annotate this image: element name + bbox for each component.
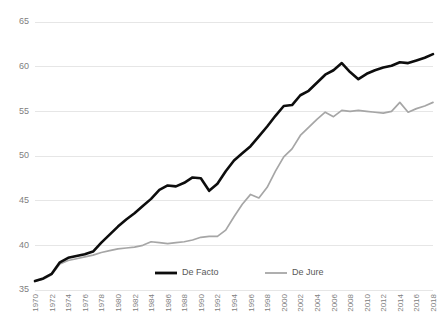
x-axis-tick-label: 2000 <box>280 293 289 311</box>
x-axis-tick-label: 1978 <box>97 293 106 311</box>
chart-background <box>0 0 440 332</box>
x-axis-tick-label: 2018 <box>429 293 438 311</box>
x-axis-tick-label: 1972 <box>48 293 57 311</box>
x-axis-tick-label: 1986 <box>164 293 173 311</box>
x-axis-tick-label: 1976 <box>81 293 90 311</box>
y-axis-tick-label: 65 <box>19 16 29 26</box>
x-axis-tick-label: 2014 <box>396 293 405 311</box>
x-axis-tick-label: 2016 <box>412 293 421 311</box>
y-axis-tick-label: 60 <box>19 61 29 71</box>
x-axis-tick-label: 2002 <box>296 293 305 311</box>
x-axis-tick-label: 2004 <box>313 293 322 311</box>
legend-label-de-jure: De Jure <box>292 267 324 277</box>
x-axis-tick-label: 2012 <box>379 293 388 311</box>
x-axis-tick-label: 2008 <box>346 293 355 311</box>
x-axis-tick-label: 2006 <box>330 293 339 311</box>
x-axis-tick-label: 1996 <box>247 293 256 311</box>
x-axis-tick-label: 1980 <box>114 293 123 311</box>
y-axis-tick-label: 50 <box>19 150 29 160</box>
x-axis-tick-label: 1992 <box>213 293 222 311</box>
x-axis-tick-label: 1988 <box>180 293 189 311</box>
line-chart: 65605550454035 1970197219741976197819801… <box>0 0 440 332</box>
x-axis-tick-label: 2010 <box>363 293 372 311</box>
x-axis-tick-label: 1998 <box>263 293 272 311</box>
chart-canvas: 65605550454035 1970197219741976197819801… <box>0 0 440 332</box>
x-axis-tick-label: 1970 <box>31 293 40 311</box>
x-axis-tick-label: 1974 <box>64 293 73 311</box>
y-axis-tick-label: 45 <box>19 195 29 205</box>
y-axis-tick-label: 40 <box>19 240 29 250</box>
x-axis-tick-label: 1984 <box>147 293 156 311</box>
y-axis-tick-label: 55 <box>19 106 29 116</box>
x-axis-tick-label: 1990 <box>197 293 206 311</box>
x-axis-tick-label: 1994 <box>230 293 239 311</box>
legend-label-de-facto: De Facto <box>182 267 219 277</box>
x-axis-tick-label: 1982 <box>131 293 140 311</box>
y-axis-tick-label: 35 <box>19 284 29 294</box>
